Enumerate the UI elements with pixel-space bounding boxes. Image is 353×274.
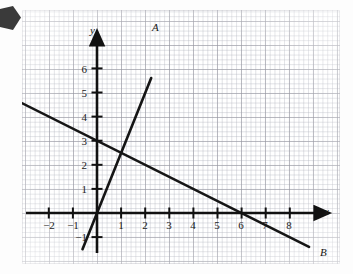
y-tick-label: 1 (71, 183, 87, 195)
x-tick-label: 1 (111, 219, 131, 231)
x-tick-label: 2 (135, 219, 155, 231)
x-tick-label: 3 (159, 219, 179, 231)
y-tick-label: 4 (71, 111, 87, 123)
y-axis-label: y (90, 24, 95, 36)
graph-figure: x y −2 −1 1 2 3 4 5 6 7 8 −1 1 2 3 4 5 6… (0, 0, 353, 274)
graph-vector-overlay (0, 0, 353, 274)
y-tick-label: 2 (71, 159, 87, 171)
x-tick-label: 4 (183, 219, 203, 231)
line-a-label: A (152, 21, 159, 33)
line-b-label: B (320, 246, 327, 258)
x-tick-label: 7 (255, 219, 275, 231)
y-tick-label: 5 (71, 87, 87, 99)
x-tick-label: 5 (207, 219, 227, 231)
x-tick-label: −2 (39, 219, 59, 231)
x-axis-label: x (324, 205, 329, 217)
x-tick-label: 6 (231, 219, 251, 231)
x-tick-label: −1 (63, 219, 83, 231)
y-tick-label: 3 (71, 135, 87, 147)
x-tick-label: 8 (279, 219, 299, 231)
y-tick-label: −1 (71, 231, 87, 243)
y-tick-label: 6 (71, 63, 87, 75)
